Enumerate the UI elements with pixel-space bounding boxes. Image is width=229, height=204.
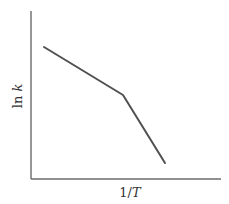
arrhenius-chart: 1/T ln k	[0, 0, 229, 204]
y-axis-label: ln k	[10, 84, 25, 109]
data-line	[44, 47, 165, 163]
x-axis-label: 1/T	[119, 185, 142, 200]
